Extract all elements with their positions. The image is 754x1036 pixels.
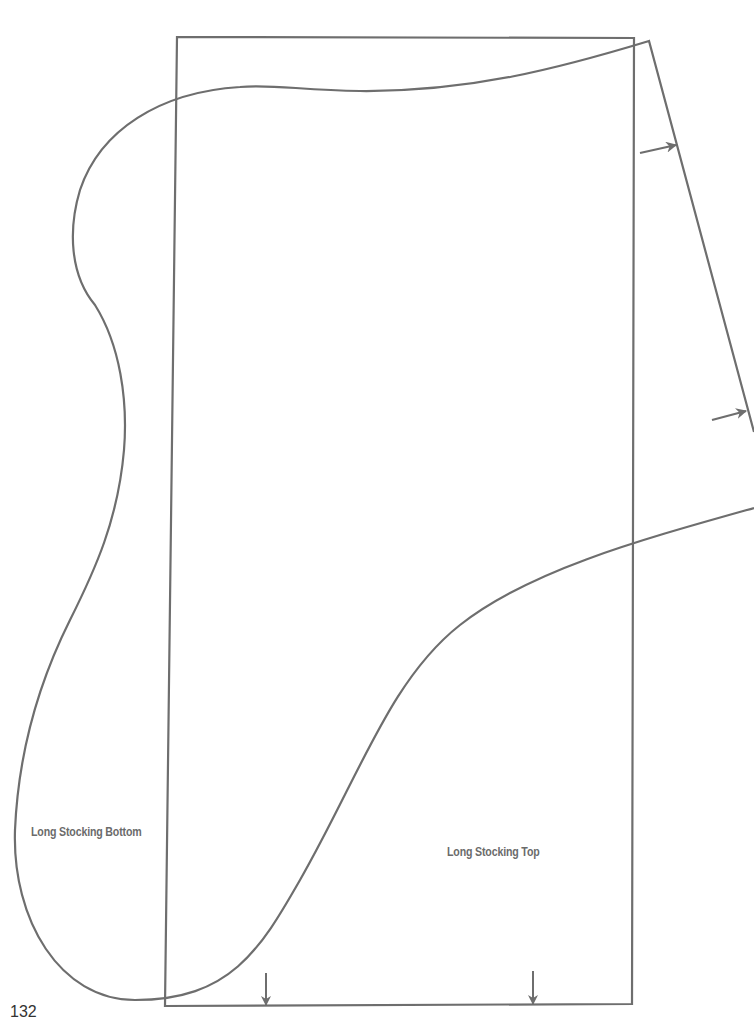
stocking-bottom-outline	[15, 41, 754, 1000]
arrow-right-lower-icon	[712, 411, 746, 420]
stocking-bottom-label: Long Stocking Bottom	[31, 825, 142, 839]
sewing-pattern-diagram	[0, 0, 754, 1036]
stocking-top-rectangle	[165, 37, 634, 1006]
stocking-top-label: Long Stocking Top	[447, 845, 540, 859]
page-number: 132	[10, 1003, 37, 1021]
arrow-right-upper-icon	[640, 145, 676, 153]
